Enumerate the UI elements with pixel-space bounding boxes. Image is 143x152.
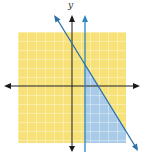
y-axis-label: y (68, 0, 73, 10)
y-axis-down-arrow-icon (69, 146, 75, 152)
diagonal-line-top-arrow-icon (54, 15, 61, 23)
x-axis-right-arrow-icon (133, 83, 140, 89)
inequality-graph (0, 0, 143, 152)
x-axis-left-arrow-icon (4, 83, 11, 89)
vertical-line-arrow-icon (82, 15, 88, 22)
y-axis-up-arrow-icon (69, 15, 75, 22)
diagonal-line-bottom-arrow-icon (132, 144, 138, 152)
